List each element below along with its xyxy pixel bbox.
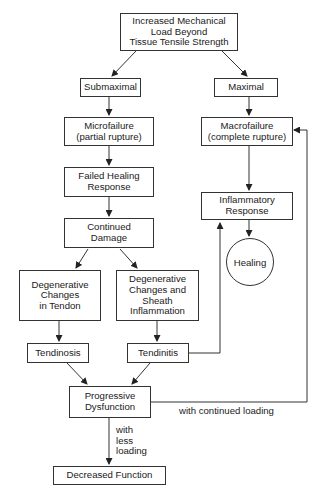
node-failed-healing: Failed Healing Response <box>64 167 154 197</box>
node-decreased: Decreased Function <box>53 466 166 485</box>
node-progressive: Progressive Dysfunction <box>69 386 151 418</box>
node-macrofailure: Macrofailure (complete rupture) <box>201 117 293 146</box>
flowchart: Increased Mechanical Load Beyond Tissue … <box>0 0 320 490</box>
label-continued-loading: with continued loading <box>179 406 274 417</box>
node-degen-tendon: Degenerative Changes in Tendon <box>19 270 101 321</box>
node-increased-load: Increased Mechanical Load Beyond Tissue … <box>120 13 238 51</box>
node-tendinosis: Tendinosis <box>27 343 89 363</box>
label-less-loading: with less loading <box>116 425 147 457</box>
node-microfailure: Microfailure (partial rupture) <box>64 117 154 146</box>
node-submaximal: Submaximal <box>80 78 141 97</box>
node-maximal: Maximal <box>214 78 278 97</box>
node-tendinitis: Tendinitis <box>127 343 189 363</box>
node-degen-sheath: Degenerative Changes and Sheath Inflamma… <box>116 270 199 321</box>
node-inflammatory: Inflammatory Response <box>201 192 293 220</box>
node-continued-damage: Continued Damage <box>64 218 154 248</box>
node-healing: Healing <box>226 238 274 286</box>
